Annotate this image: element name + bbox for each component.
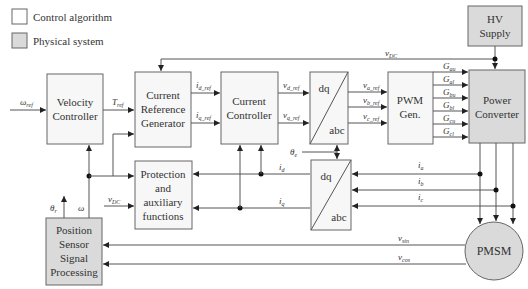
current-controller-line2: Controller [226,109,272,121]
velocity-controller-line1: Velocity [57,96,94,108]
pwm-gen-line1: PWM [397,94,424,106]
current-controller-block: Current Controller [221,72,278,144]
hv-supply-line1: HV [487,13,503,25]
power-converter-line2: Converter [475,108,519,120]
velocity-controller-line2: Controller [52,110,98,122]
legend-swatch-physical [12,33,27,48]
current-reference-generator-block: Current Reference Generator [135,72,191,147]
label-g-bu: Gbu [443,87,456,98]
power-converter-block: Power Converter [469,70,525,143]
label-i-c: ic [418,192,424,203]
abc-to-dq-transform-block: dq abc [311,160,351,230]
pwm-gen-line2: Gen. [399,108,420,120]
label-va-ref: va_ref [363,80,381,91]
label-v-dc-left: vDC [108,194,121,205]
label-g-bl: Gbl [443,100,455,111]
position-sensor-line4: Processing [50,266,98,278]
label-i-d: id [279,162,286,173]
dq-abc-bottom-label-abc: abc [331,211,346,223]
label-i-b: ib [418,176,424,187]
protection-line4: functions [143,210,184,222]
label-v-cos: vcos [398,252,411,263]
protection-line3: auxiliary [143,196,183,208]
legend-label-control: Control algorithm [33,11,113,23]
label-i-q: iq [279,196,285,207]
label-vd-ref: vd_ref [283,80,301,91]
power-converter-line1: Power [483,94,511,106]
current-ref-gen-line1: Current [146,89,180,101]
dq-abc-top-label-dq: dq [319,82,331,94]
position-sensor-processing-block: Position Sensor Signal Processing [46,218,102,285]
protection-line1: Protection [140,168,186,180]
label-v-dc-top: vDC [385,48,398,59]
label-g-cu: Gcu [443,113,455,124]
label-vb-ref: vb_ref [363,95,381,106]
legend-swatch-control [12,9,27,24]
current-ref-gen-line3: Generator [141,117,185,129]
label-theta-r: θr [50,203,57,214]
label-i-a: ia [418,160,424,171]
protection-block: Protection and auxiliary functions [135,161,192,229]
position-sensor-line1: Position [56,224,93,236]
label-t-ref: Tref [112,97,125,108]
position-sensor-line3: Signal [60,252,88,264]
motor-control-block-diagram: Control algorithm Physical system Veloci… [0,0,528,289]
pmsm-label: PMSM [477,244,512,258]
label-iq-ref: iq_ref [196,110,212,121]
label-vc-ref: vc_ref [363,111,380,122]
label-id-ref: id_ref [196,80,212,91]
protection-line2: and [155,182,171,194]
gate-signals: Gau Gal Gbu Gbl Gcu Gcl [433,61,468,137]
current-controller-line1: Current [232,95,266,107]
pmsm-motor: PMSM [465,222,523,280]
label-theta-e: θe [290,147,297,158]
label-vq-ref: vq_ref [283,110,301,121]
dq-to-abc-transform-block: dq abc [310,72,348,144]
legend: Control algorithm Physical system [12,9,113,48]
label-omega-ref: ωref [20,97,34,108]
dq-abc-bottom-label-dq: dq [321,170,333,182]
hv-supply-block: HV Supply [468,6,522,46]
dq-abc-top-label-abc: abc [329,124,344,136]
pwm-generator-block: PWM Gen. [388,72,433,144]
label-g-cl: Gcl [443,126,454,137]
label-v-sin: vsin [398,233,409,244]
position-sensor-line2: Sensor [59,238,89,250]
label-g-au: Gau [443,61,456,72]
label-omega: ω [78,203,84,213]
hv-supply-line2: Supply [479,27,511,39]
label-g-al: Gal [443,74,455,85]
legend-label-physical: Physical system [33,35,104,47]
current-ref-gen-line2: Reference [141,103,186,115]
velocity-controller-block: Velocity Controller [47,74,103,144]
